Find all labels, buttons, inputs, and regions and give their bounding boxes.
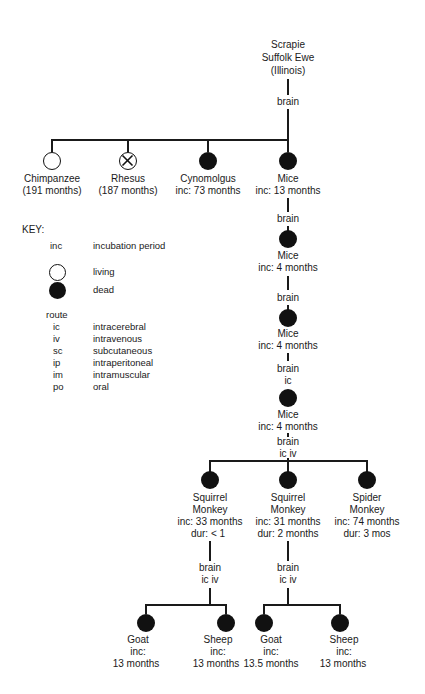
node-value: 13 months xyxy=(320,658,367,670)
node-dur: dur: < 1 xyxy=(191,528,225,540)
connector-line xyxy=(263,604,265,614)
node-value: 13 months xyxy=(193,658,240,670)
dead-circle-icon xyxy=(137,614,155,632)
connector-line xyxy=(287,198,289,212)
node-detail: (187 months) xyxy=(99,185,158,197)
route-label: brain xyxy=(277,96,299,108)
legend-abbr: iv xyxy=(53,333,60,345)
node-name: Mice xyxy=(277,328,298,340)
branch-bar xyxy=(210,460,368,462)
node-inc: inc: 33 months xyxy=(177,516,242,528)
node-inc: inc: xyxy=(263,646,279,658)
connector-line xyxy=(127,139,129,152)
dead-circle-icon xyxy=(49,282,66,299)
dead-circle-icon xyxy=(279,471,297,489)
connector-line xyxy=(145,604,147,614)
legend-label: intravenous xyxy=(93,333,142,345)
dead-circle-icon xyxy=(279,309,297,327)
dead-circle-icon xyxy=(201,471,219,489)
crossed-circle-icon xyxy=(119,152,137,170)
legend-label: dead xyxy=(93,284,114,296)
root-label-1: Scrapie xyxy=(271,39,305,51)
legend-label: oral xyxy=(93,381,109,393)
node-inc: inc: 74 months xyxy=(334,516,399,528)
connector-line xyxy=(287,79,289,95)
legend-label: living xyxy=(93,266,115,278)
dead-circle-icon xyxy=(255,614,273,632)
connector-line xyxy=(287,458,289,472)
node-inc: inc: xyxy=(210,646,226,658)
dead-circle-icon xyxy=(199,152,217,170)
node-detail: inc: 13 months xyxy=(255,185,320,197)
node-name: Rhesus xyxy=(111,173,145,185)
route-label: ic iv xyxy=(201,574,218,586)
legend-label: incubation period xyxy=(93,240,165,252)
legend-abbr: ip xyxy=(53,357,60,369)
node-name: Spider xyxy=(353,492,382,504)
dead-circle-icon xyxy=(279,230,297,248)
connector-line xyxy=(287,541,289,561)
branch-bar xyxy=(52,139,289,141)
node-name: Squirrel xyxy=(271,492,305,504)
node-name: Chimpanzee xyxy=(24,173,80,185)
dead-circle-icon xyxy=(279,152,297,170)
legend-abbr: sc xyxy=(53,345,63,357)
node-detail: inc: 73 months xyxy=(175,185,240,197)
node-name: Mice xyxy=(277,250,298,262)
connector-line xyxy=(209,541,211,561)
living-circle-icon xyxy=(49,264,66,281)
route-label: brain xyxy=(277,292,299,304)
legend-label: intraperitoneal xyxy=(93,357,153,369)
node-name: Goat xyxy=(127,634,149,646)
node-name: Monkey xyxy=(270,504,305,516)
node-name: Monkey xyxy=(192,504,227,516)
route-label: brain xyxy=(277,562,299,574)
node-detail: inc: 4 months xyxy=(258,340,317,352)
legend-route-title: route xyxy=(46,309,68,321)
dead-circle-icon xyxy=(358,471,376,489)
legend-abbr: po xyxy=(53,381,64,393)
branch-bar xyxy=(146,604,227,606)
connector-line xyxy=(287,353,289,361)
legend-abbr: inc xyxy=(50,240,62,252)
legend-label: subcutaneous xyxy=(93,345,152,357)
node-inc: inc: 31 months xyxy=(255,516,320,528)
legend-abbr: im xyxy=(53,369,63,381)
connector-line xyxy=(339,604,341,614)
root-label-2: Suffolk Ewe xyxy=(262,52,315,64)
legend-label: intracerebral xyxy=(93,321,146,333)
connector-line xyxy=(287,109,289,152)
connector-line xyxy=(287,276,289,290)
route-label: ic iv xyxy=(279,574,296,586)
node-detail: inc: 4 months xyxy=(258,262,317,274)
node-inc: inc: xyxy=(130,646,146,658)
connector-line xyxy=(287,588,289,605)
node-dur: dur: 3 mos xyxy=(343,528,390,540)
node-value: 13.5 months xyxy=(243,658,298,670)
node-name: Monkey xyxy=(349,504,384,516)
legend-label: intramuscular xyxy=(93,369,150,381)
node-detail: inc: 4 months xyxy=(258,421,317,433)
connector-line xyxy=(207,139,209,152)
route-label: brain xyxy=(277,363,299,375)
node-name: Sheep xyxy=(204,634,233,646)
route-label: ic xyxy=(284,375,291,387)
dead-circle-icon xyxy=(279,389,297,407)
connector-line xyxy=(209,588,211,605)
connector-line xyxy=(225,604,227,614)
dead-circle-icon xyxy=(217,614,235,632)
legend-title: KEY: xyxy=(22,224,44,236)
living-circle-icon xyxy=(43,152,61,170)
node-name: Goat xyxy=(260,634,282,646)
node-name: Cynomolgus xyxy=(180,173,236,185)
node-name: Mice xyxy=(277,173,298,185)
node-value: 13 months xyxy=(113,658,160,670)
root-label-3: (Illinois) xyxy=(271,65,305,77)
branch-bar xyxy=(264,604,341,606)
node-dur: dur: 2 months xyxy=(257,528,318,540)
connector-line xyxy=(51,139,53,152)
node-detail: (191 months) xyxy=(23,185,82,197)
node-name: Squirrel xyxy=(193,492,227,504)
node-name: Sheep xyxy=(330,634,359,646)
node-inc: inc: xyxy=(336,646,352,658)
